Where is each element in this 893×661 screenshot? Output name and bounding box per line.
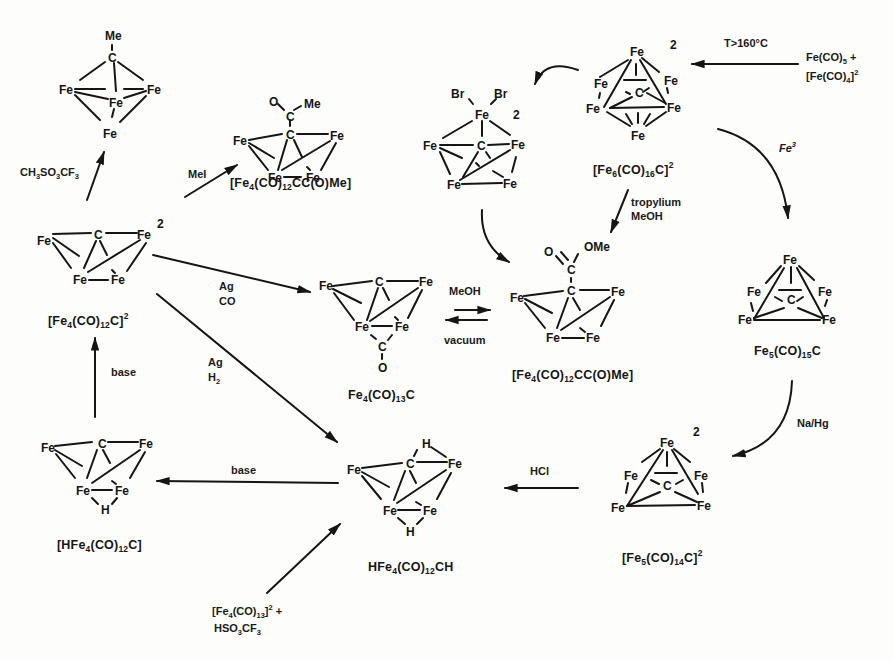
reagent-vacuum: vacuum [444, 333, 486, 347]
reagent-hso3cf3: HSO3CF3 [214, 621, 261, 640]
label-ester-cluster: [Fe4(CO)12CC(O)Me] [512, 368, 633, 384]
svg-text:Fe: Fe [694, 469, 708, 483]
reagent-hcl: HCl [530, 464, 549, 478]
svg-text:Fe: Fe [109, 96, 123, 110]
svg-text:Fe: Fe [355, 320, 369, 334]
svg-text:Fe: Fe [111, 273, 125, 287]
reagent-base-up: base [111, 365, 136, 379]
svg-text:Fe: Fe [73, 273, 87, 287]
svg-text:C: C [477, 139, 486, 153]
arrow-protonation [267, 524, 340, 593]
svg-text:C: C [286, 128, 295, 142]
label-fe4co13c: Fe4(CO)13C [348, 388, 415, 404]
reagent-heat: T>160°C [724, 36, 768, 50]
svg-text:Fe: Fe [818, 285, 832, 299]
reagent-fe4co13: [Fe4(CO)13]2 + [212, 601, 282, 623]
svg-text:O: O [544, 245, 553, 259]
arrow-br-to-ester [482, 210, 509, 262]
arrow-bromination [535, 66, 578, 84]
svg-text:Fe: Fe [660, 436, 674, 450]
label-hfe4ch: HFe4(CO)12CH [368, 560, 453, 576]
svg-text:Fe: Fe [738, 313, 752, 327]
svg-text:Fe: Fe [37, 234, 51, 248]
svg-text:2: 2 [157, 217, 164, 231]
label-fe6-cluster: [Fe6(CO)16C]2 [593, 160, 674, 179]
arrow-base-left [157, 481, 338, 483]
reagent-mei: MeI [188, 167, 206, 181]
svg-text:O: O [378, 361, 387, 375]
svg-text:Me: Me [304, 97, 321, 111]
svg-text:Fe: Fe [423, 139, 437, 153]
svg-text:Fe: Fe [41, 441, 55, 455]
reagent-feco4: [Fe(CO)4]2 [806, 66, 858, 88]
reagent-meoh: MeOH [449, 284, 481, 298]
svg-text:Fe: Fe [147, 83, 161, 97]
svg-text:Br: Br [451, 87, 465, 101]
label-fe5co14c: [Fe5(CO)14C]2 [622, 548, 703, 567]
svg-text:Fe: Fe [448, 457, 462, 471]
reagent-base-left: base [231, 463, 256, 477]
reagent-meoh-tropylium: MeOH [631, 209, 663, 223]
arrow-ag-h2 [157, 294, 337, 442]
svg-text:Fe: Fe [667, 101, 681, 115]
fe6-cluster-structure [599, 58, 668, 126]
svg-text:Fe: Fe [419, 275, 433, 289]
svg-text:Fe: Fe [395, 320, 409, 334]
svg-text:C: C [787, 293, 796, 307]
svg-text:Fe: Fe [137, 228, 151, 242]
svg-text:C: C [635, 86, 644, 100]
svg-text:C: C [663, 479, 672, 493]
svg-text:Fe: Fe [139, 437, 153, 451]
svg-text:Fe: Fe [822, 313, 836, 327]
arrow-fe3-oxidation [718, 129, 788, 218]
svg-text:Fe: Fe [630, 45, 644, 59]
svg-text:Fe: Fe [624, 469, 638, 483]
svg-text:Fe: Fe [103, 127, 117, 141]
svg-text:C: C [98, 437, 107, 451]
svg-text:H: H [101, 503, 110, 517]
svg-text:Fe: Fe [747, 285, 761, 299]
svg-text:Fe: Fe [611, 501, 625, 515]
svg-text:2: 2 [693, 425, 700, 439]
svg-text:OMe: OMe [584, 240, 610, 254]
label-fe4-dianion: [Fe4(CO)12C]2 [48, 311, 129, 330]
svg-text:Fe: Fe [59, 83, 73, 97]
svg-text:Fe: Fe [511, 138, 525, 152]
label-fe5co15c: Fe5(CO)15C [754, 344, 821, 360]
svg-text:Fe: Fe [697, 499, 711, 513]
svg-text:Fe: Fe [347, 463, 361, 477]
reagent-tropylium: tropylium [631, 195, 681, 209]
svg-text:Fe: Fe [594, 77, 608, 91]
svg-text:Fe: Fe [423, 504, 437, 518]
reagent-ag-2: Ag [208, 355, 223, 369]
label-hfe4c: [HFe4(CO)12C] [57, 538, 142, 554]
svg-text:C: C [567, 263, 576, 277]
reagent-nahg: Na/Hg [797, 416, 829, 430]
reagent-methyl-triflate: CH3SO3CF3 [20, 165, 79, 184]
svg-text:C: C [378, 340, 387, 354]
svg-text:O: O [269, 95, 278, 109]
svg-text:Fe: Fe [330, 129, 344, 143]
svg-text:Fe: Fe [503, 177, 517, 191]
svg-text:Br: Br [494, 87, 508, 101]
reagent-ag-1: Ag [219, 279, 234, 293]
reagent-h2: H2 [208, 370, 220, 389]
svg-text:Fe: Fe [76, 484, 90, 498]
svg-text:Fe: Fe [546, 331, 560, 345]
reagent-fe3: Fe3 [779, 138, 796, 155]
reagent-co: CO [219, 294, 236, 308]
svg-text:Fe: Fe [510, 291, 524, 305]
svg-text:2: 2 [670, 38, 677, 52]
svg-text:2: 2 [513, 108, 520, 122]
svg-text:C: C [286, 110, 295, 124]
arrow-triflate [87, 152, 104, 200]
svg-text:Fe: Fe [586, 331, 600, 345]
svg-text:H: H [422, 437, 431, 451]
svg-text:Fe: Fe [631, 129, 645, 143]
svg-text:Fe: Fe [383, 504, 397, 518]
svg-text:Fe: Fe [233, 134, 247, 148]
svg-text:Fe: Fe [783, 253, 797, 267]
label-acyl-cluster: [Fe4(CO)12CC(O)Me] [230, 176, 351, 192]
svg-text:Fe: Fe [319, 279, 333, 293]
svg-text:Fe: Fe [586, 102, 600, 116]
